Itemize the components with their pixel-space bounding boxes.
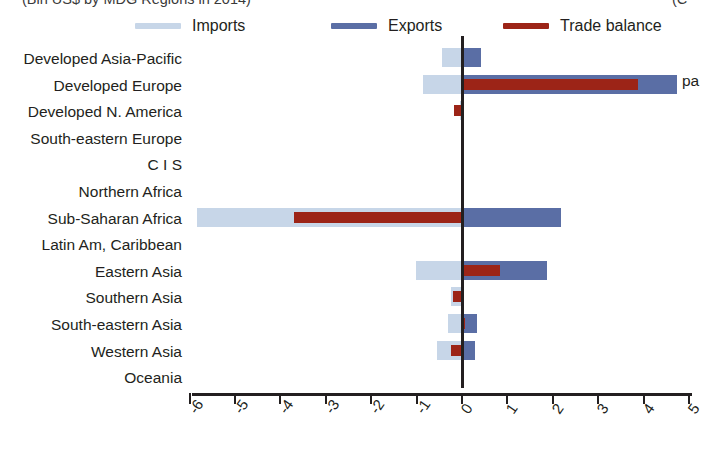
axis-tick-label: 5 xyxy=(684,400,701,417)
bar-balance xyxy=(461,265,500,276)
category-label: Eastern Asia xyxy=(95,264,182,280)
bar-balance xyxy=(451,345,461,356)
bar-balance xyxy=(453,291,461,302)
plot-area: Developed Asia-PacificDeveloped EuropeDe… xyxy=(0,40,701,395)
legend-exports-label: Exports xyxy=(388,18,442,34)
chart-root: (Bln US$ by MDG Regions in 2014) (C Impo… xyxy=(0,0,701,450)
bar-balance xyxy=(294,212,461,223)
bar-imports xyxy=(416,261,461,280)
axis-tick-label: 3 xyxy=(593,400,612,417)
axis-tick-label: 0 xyxy=(457,400,476,417)
bar-imports xyxy=(448,314,461,333)
chart-legend: ImportsExportsTrade balance xyxy=(0,14,701,38)
bar-row xyxy=(186,231,701,257)
bar-row xyxy=(186,72,701,98)
legend-trade-balance-label: Trade balance xyxy=(560,18,662,34)
legend-exports[interactable]: Exports xyxy=(331,14,442,38)
chart-title-right: (C xyxy=(672,0,687,7)
axis-tick-label: 1 xyxy=(502,400,521,417)
category-label: Developed Asia-Pacific xyxy=(23,51,182,67)
bars-area xyxy=(186,40,701,390)
bar-balance xyxy=(454,105,461,116)
category-axis-labels: Developed Asia-PacificDeveloped EuropeDe… xyxy=(0,40,186,390)
value-axis: -6-5-4-3-2-1012345 xyxy=(186,393,701,450)
category-label: South-eastern Europe xyxy=(30,131,182,147)
chart-title-clipped: (Bln US$ by MDG Regions in 2014) (C xyxy=(0,0,701,9)
category-label: Developed Europe xyxy=(54,78,182,94)
bar-imports xyxy=(423,75,461,94)
axis-tick-label: 2 xyxy=(548,400,567,417)
bar-row xyxy=(186,364,701,390)
category-label: Western Asia xyxy=(91,344,182,360)
legend-imports-label: Imports xyxy=(192,18,245,34)
bar-row xyxy=(186,45,701,71)
bar-row xyxy=(186,98,701,124)
bar-row xyxy=(186,311,701,337)
category-label: Developed N. America xyxy=(28,104,182,120)
category-label: Latin Am, Caribbean xyxy=(42,237,182,253)
axis-tick-label: 4 xyxy=(639,400,658,417)
category-label: Northern Africa xyxy=(79,184,182,200)
bar-row xyxy=(186,205,701,231)
bar-row xyxy=(186,338,701,364)
legend-imports-swatch xyxy=(135,23,181,29)
legend-imports[interactable]: Imports xyxy=(135,14,245,38)
bar-row xyxy=(186,125,701,151)
category-label: Southern Asia xyxy=(85,290,182,306)
bar-exports xyxy=(461,208,561,227)
category-label: Oceania xyxy=(124,370,182,386)
bar-row xyxy=(186,178,701,204)
bar-row xyxy=(186,284,701,310)
legend-exports-swatch xyxy=(331,23,377,29)
bar-imports xyxy=(442,48,461,67)
category-label: South-eastern Asia xyxy=(51,317,182,333)
bar-balance xyxy=(461,79,638,90)
legend-trade-balance[interactable]: Trade balance xyxy=(503,14,662,38)
legend-trade-balance-swatch xyxy=(503,23,549,29)
chart-title-left: (Bln US$ by MDG Regions in 2014) xyxy=(22,0,251,7)
axis-line xyxy=(192,393,692,396)
bar-row xyxy=(186,151,701,177)
category-label: C I S xyxy=(148,157,182,173)
bar-row xyxy=(186,258,701,284)
bar-exports xyxy=(461,48,481,67)
category-label: Sub-Saharan Africa xyxy=(48,211,182,227)
zero-axis-line xyxy=(461,36,464,388)
